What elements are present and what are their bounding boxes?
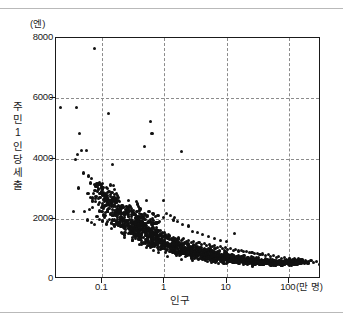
data-point — [187, 244, 190, 247]
data-point — [136, 202, 139, 205]
data-point — [155, 222, 158, 225]
data-point — [152, 249, 155, 252]
data-point — [157, 251, 160, 254]
data-point — [97, 182, 100, 185]
data-point — [131, 239, 134, 242]
data-point — [213, 237, 216, 240]
data-point — [83, 210, 86, 213]
data-point — [72, 210, 75, 213]
data-point — [154, 232, 157, 235]
data-point — [91, 206, 94, 209]
data-point — [245, 261, 248, 264]
data-point — [113, 212, 116, 215]
data-point — [143, 145, 146, 148]
data-point — [78, 132, 81, 135]
gridline-vertical — [289, 38, 290, 277]
data-point — [93, 47, 96, 50]
data-point — [80, 149, 83, 152]
data-point — [75, 106, 78, 109]
data-point — [235, 258, 238, 261]
data-point — [166, 255, 169, 258]
data-point — [287, 261, 290, 264]
data-point — [119, 224, 122, 227]
data-point — [145, 215, 148, 218]
data-point — [123, 236, 126, 239]
data-point — [207, 255, 210, 258]
data-point — [113, 224, 116, 227]
data-point — [86, 192, 89, 195]
data-point — [290, 262, 293, 265]
data-point — [142, 228, 145, 231]
data-point — [101, 182, 104, 185]
data-point — [172, 240, 175, 243]
data-point — [187, 224, 190, 227]
data-point — [118, 200, 121, 203]
data-point — [180, 258, 183, 261]
data-point — [180, 150, 183, 153]
data-point — [126, 223, 129, 226]
data-point — [281, 261, 284, 264]
data-point — [191, 230, 194, 233]
data-point — [252, 256, 255, 259]
data-point — [160, 243, 163, 246]
data-point — [318, 263, 321, 266]
x-tick-mark — [226, 278, 227, 283]
data-point — [169, 214, 172, 217]
data-point — [303, 261, 306, 264]
gridline-horizontal — [56, 159, 319, 160]
data-point — [181, 223, 184, 226]
data-point — [243, 256, 246, 259]
plot-area — [55, 37, 320, 278]
data-point — [190, 256, 193, 259]
data-point — [219, 239, 222, 242]
data-point — [90, 177, 93, 180]
x-tick-mark — [288, 278, 289, 283]
data-point — [92, 192, 95, 195]
data-point — [100, 206, 103, 209]
data-point — [85, 149, 88, 152]
data-point — [196, 231, 199, 234]
data-point — [112, 184, 115, 187]
data-point — [162, 216, 165, 219]
x-tick-mark — [101, 278, 102, 283]
scatter-plot-figure: (엔) (만 명) 주민1인당세출 인구 80006000400020000 0… — [0, 0, 343, 321]
data-point — [111, 163, 114, 166]
data-point — [188, 253, 191, 256]
data-point — [113, 199, 116, 202]
data-point — [179, 245, 182, 248]
data-point — [165, 212, 168, 215]
data-point — [150, 132, 153, 135]
data-point — [203, 248, 206, 251]
data-point — [296, 260, 299, 263]
data-point — [88, 208, 91, 211]
gridline-horizontal — [56, 98, 319, 99]
data-point — [107, 112, 110, 115]
data-point — [144, 242, 147, 245]
data-point — [111, 219, 114, 222]
data-point — [113, 188, 116, 191]
data-point — [93, 223, 96, 226]
data-point — [145, 199, 148, 202]
data-point — [233, 232, 236, 235]
data-point — [111, 203, 114, 206]
gridline-horizontal — [56, 219, 319, 220]
data-point — [299, 259, 302, 262]
data-point — [91, 199, 94, 202]
data-point — [156, 214, 159, 217]
data-point — [102, 214, 105, 217]
data-point — [238, 256, 241, 259]
data-point — [214, 257, 217, 260]
data-point — [223, 262, 226, 265]
data-point — [140, 241, 143, 244]
data-point — [117, 204, 120, 207]
data-point — [74, 158, 77, 161]
gridline-vertical — [102, 38, 103, 277]
data-point — [176, 220, 179, 223]
data-point — [101, 220, 104, 223]
data-point — [86, 218, 89, 221]
data-point — [149, 120, 152, 123]
data-point — [109, 195, 112, 198]
data-point — [218, 257, 221, 260]
data-point — [59, 106, 62, 109]
data-point — [273, 261, 276, 264]
